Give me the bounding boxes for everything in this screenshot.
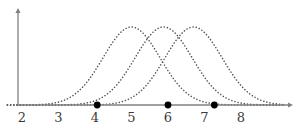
curve-3 [7, 27, 284, 105]
x-tick-label-3: 3 [49, 111, 69, 125]
y-axis-arrowhead-icon [15, 8, 20, 13]
marker-point-1[interactable] [94, 102, 101, 109]
marker-point-3[interactable] [211, 102, 218, 109]
x-tick-label-2: 2 [12, 111, 32, 125]
x-tick-label-7: 7 [195, 111, 215, 125]
curves-group [7, 27, 284, 105]
x-tick-label-6: 6 [158, 111, 178, 125]
curve-1 [7, 27, 284, 105]
x-axis-arrowhead-icon [288, 102, 293, 107]
x-tick-label-5: 5 [122, 111, 142, 125]
plot-canvas [0, 0, 308, 130]
axes-group [15, 8, 293, 108]
marker-point-2[interactable] [165, 102, 172, 109]
x-tick-label-4: 4 [85, 111, 105, 125]
curve-2 [7, 27, 284, 105]
x-tick-label-8: 8 [231, 111, 251, 125]
chart-figure: 2345678 [0, 0, 308, 130]
